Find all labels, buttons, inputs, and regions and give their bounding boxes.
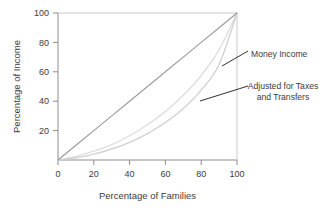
annotation-label-adjusted-line2: and Transfers xyxy=(257,92,310,102)
lorenz-curve-chart: 100 80 60 40 20 0 20 40 60 80 100 xyxy=(0,0,336,211)
annotation-label-adjusted-line1: Adjusted for Taxes xyxy=(248,81,319,91)
y-tick-label-80: 80 xyxy=(39,38,49,48)
y-axis-title: Percentage of Income xyxy=(11,40,22,133)
x-tick-label-100: 100 xyxy=(229,169,244,179)
x-tick-label-40: 40 xyxy=(125,169,135,179)
x-axis-title: Percentage of Families xyxy=(99,190,196,201)
x-tick-label-80: 80 xyxy=(196,169,206,179)
y-tick-label-100: 100 xyxy=(34,8,49,18)
y-tick-label-20: 20 xyxy=(39,126,49,136)
y-tick-label-60: 60 xyxy=(39,67,49,77)
x-tick-label-20: 20 xyxy=(89,169,99,179)
chart-background xyxy=(0,0,336,211)
x-tick-label-60: 60 xyxy=(160,169,170,179)
chart-canvas: 100 80 60 40 20 0 20 40 60 80 100 xyxy=(0,0,336,211)
annotation-label-money-income: Money Income xyxy=(251,49,308,59)
y-tick-label-40: 40 xyxy=(39,96,49,106)
x-tick-label-0: 0 xyxy=(55,169,60,179)
